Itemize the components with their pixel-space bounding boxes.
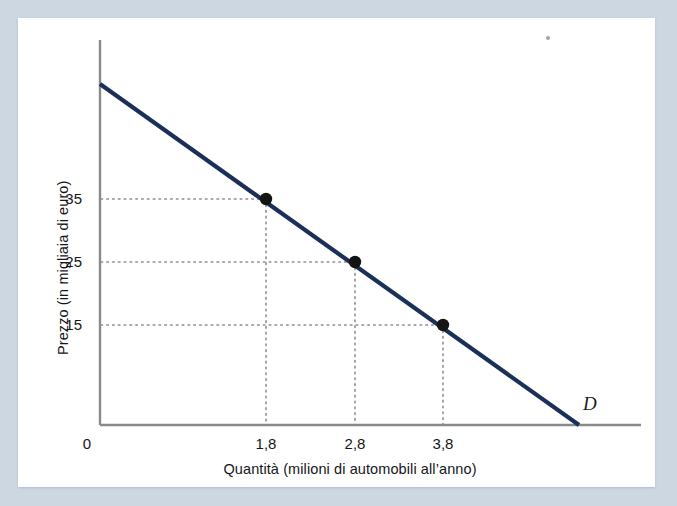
x-axis-title: Quantità (milioni di automobili all’anno… xyxy=(140,461,560,477)
y-axis-title: Prezzo (in migliaia di euro) xyxy=(55,181,71,355)
data-point-marker xyxy=(260,193,272,205)
x-tick-label-0: 0 xyxy=(72,435,102,452)
x-tick-label-2-8: 2,8 xyxy=(330,435,380,452)
demand-curve-label: D xyxy=(583,393,597,415)
data-point-marker xyxy=(437,319,449,331)
data-point-marker xyxy=(349,256,361,268)
figure-root: 35 25 15 0 1,8 2,8 3,8 Prezzo (in miglia… xyxy=(0,0,677,506)
x-tick-label-1-8: 1,8 xyxy=(241,435,291,452)
demand-curve-plot xyxy=(0,0,677,506)
scan-speck-artifact xyxy=(546,36,550,40)
demand-curve-line xyxy=(100,84,579,425)
x-tick-label-3-8: 3,8 xyxy=(418,435,468,452)
